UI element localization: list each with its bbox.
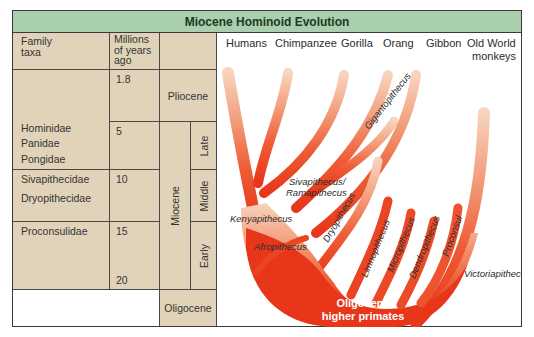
label-chimpanzee: Chimpanzee — [275, 37, 337, 49]
label-ramapithecus: Ramapithecus — [286, 187, 347, 198]
epoch-miocene-cell: Miocene — [159, 121, 190, 289]
mya-cell-4: 15 20 — [109, 221, 159, 289]
figure-title: Miocene Hominoid Evolution — [13, 11, 521, 33]
label-sivapithecus: Sivapithecus/ — [289, 176, 347, 187]
family-pongidae: Pongidae — [21, 153, 65, 165]
subepoch-middle: Middle — [198, 180, 210, 211]
mya-header-line1: Millions — [114, 34, 155, 45]
subepoch-middle-cell: Middle — [190, 169, 217, 221]
family-cell-lower: Proconsulidae — [13, 221, 109, 289]
mya-header-cell: Millions of years ago — [109, 33, 159, 69]
phylogeny-diagram: Humans Chimpanzee Gorilla Orang Gibbon O… — [216, 33, 521, 327]
family-proconsulidae: Proconsulidae — [21, 225, 88, 237]
label-victoriapithecus: Victoriapithecus — [464, 268, 521, 279]
subepoch-late: Late — [198, 135, 210, 155]
mya-header-line3: ago — [114, 55, 155, 66]
epoch-oligocene-cell: Oligocene — [159, 289, 217, 326]
mya-tick-1.8: 1.8 — [116, 73, 131, 85]
label-orang: Orang — [383, 37, 414, 49]
mya-tick-10: 10 — [116, 173, 128, 185]
label-gorilla: Gorilla — [341, 37, 374, 49]
epoch-oligocene: Oligocene — [164, 302, 211, 314]
family-cell-middle: Sivapithecidae Dryopithecidae — [13, 169, 109, 221]
epoch-miocene: Miocene — [169, 186, 181, 226]
label-monkeys: monkeys — [472, 50, 517, 62]
label-kenyapithecus: Kenyapithecus — [230, 213, 293, 224]
subepoch-early-cell: Early — [190, 221, 217, 289]
blank-cell — [13, 289, 159, 326]
mya-tick-20: 20 — [116, 274, 128, 286]
label-gibbon: Gibbon — [426, 37, 461, 49]
label-afropithecus: Afropithecus — [253, 241, 307, 252]
family-sivapithecidae: Sivapithecidae — [21, 173, 89, 185]
epoch-header-cell — [159, 33, 217, 69]
subepoch-early: Early — [198, 244, 210, 268]
figure-frame: Miocene Hominoid Evolution Family taxa H… — [12, 10, 522, 327]
family-header-line2: taxa — [21, 47, 101, 58]
mya-cell-1: 1.8 — [109, 69, 159, 121]
family-header-cell: Family taxa — [13, 33, 109, 69]
family-hominidae: Hominidae — [21, 122, 71, 134]
family-dryopithecidae: Dryopithecidae — [21, 192, 91, 204]
mya-tick-5: 5 — [116, 125, 122, 137]
mya-tick-15: 15 — [116, 225, 128, 237]
family-cell-upper: Hominidae Panidae Pongidae — [13, 69, 109, 169]
label-humans: Humans — [226, 37, 267, 49]
root-label-line1: Oligocene — [336, 297, 389, 309]
branch-chimpanzee — [258, 73, 288, 183]
phylogeny-svg: Humans Chimpanzee Gorilla Orang Gibbon O… — [216, 33, 521, 327]
branch-humans — [228, 73, 256, 223]
subepoch-late-cell: Late — [190, 121, 217, 169]
label-old-world: Old World — [467, 37, 516, 49]
mya-cell-3: 10 — [109, 169, 159, 221]
family-panidae: Panidae — [21, 137, 60, 149]
root-label-line2: higher primates — [322, 310, 405, 322]
mya-cell-2: 5 — [109, 121, 159, 169]
epoch-pliocene-cell: Pliocene — [159, 69, 217, 121]
epoch-pliocene: Pliocene — [168, 90, 208, 102]
